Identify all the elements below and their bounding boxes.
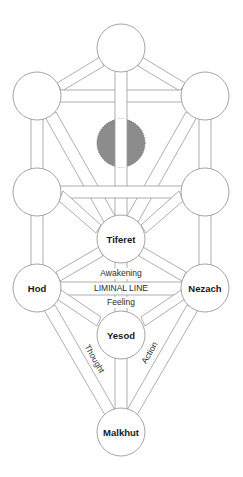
path-tiferet-hod [56, 247, 103, 281]
label-awakening: Awakening [100, 268, 142, 278]
path-middle-right-nezach [199, 215, 211, 265]
path-middle-left-hod [31, 215, 43, 265]
label-tiferet: Tiferet [107, 234, 137, 245]
node-upper-left [13, 72, 61, 120]
path-middle-horizontal [60, 186, 182, 198]
label-nezach: Nezach [188, 283, 221, 294]
label-yesod: Yesod [107, 330, 135, 341]
label-hod: Hod [28, 283, 47, 294]
label-feeling: Feeling [107, 297, 135, 307]
path-keter-upper-left [57, 57, 104, 91]
path-keter-upper-right [138, 57, 185, 91]
path-upper-left-middle-left [31, 119, 43, 169]
node-keter [97, 24, 145, 72]
node-middle-left [13, 168, 61, 216]
node-upper-right [181, 72, 229, 120]
node-middle-right [181, 168, 229, 216]
label-malkhut: Malkhut [103, 427, 140, 438]
label-liminal-line: LIMINAL LINE [94, 283, 148, 293]
path-upper-right-middle-right [199, 119, 211, 169]
path-yesod-malkhut [115, 358, 127, 410]
path-through-hidden [115, 119, 127, 167]
path-tiferet-nezach [139, 247, 186, 281]
tree-of-life-diagram: Tiferet Hod Nezach Yesod Malkhut Awakeni… [0, 0, 243, 477]
